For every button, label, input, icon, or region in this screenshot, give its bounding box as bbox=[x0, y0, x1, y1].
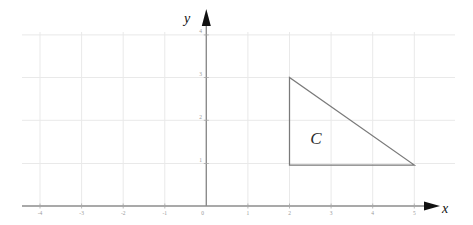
x-tick-label: 3 bbox=[330, 210, 333, 216]
origin-label: 0 bbox=[201, 210, 204, 216]
x-tick-label: -4 bbox=[38, 210, 43, 216]
x-tick-label: 4 bbox=[371, 210, 374, 216]
y-tick-label: 2 bbox=[199, 114, 202, 120]
x-axis-arrowhead-icon bbox=[424, 202, 440, 211]
y-tick-label: 1 bbox=[199, 157, 202, 163]
x-tick-label: 5 bbox=[413, 210, 416, 216]
y-axis-ticks: 1 2 3 4 bbox=[199, 28, 209, 163]
grid-lines bbox=[22, 32, 455, 206]
x-tick-label: 1 bbox=[247, 210, 250, 216]
x-tick-label: -3 bbox=[79, 210, 84, 216]
x-tick-label: -1 bbox=[163, 210, 168, 216]
triangle-shape-c bbox=[290, 78, 415, 166]
y-axis-label: y bbox=[182, 11, 191, 26]
graph-svg: x y -4 -3 -2 -1 0 1 2 3 4 5 bbox=[0, 0, 473, 225]
x-axis-label: x bbox=[441, 201, 449, 216]
x-tick-label: -2 bbox=[121, 210, 126, 216]
coordinate-plane-figure: x y -4 -3 -2 -1 0 1 2 3 4 5 bbox=[0, 0, 473, 225]
shape-label-c: C bbox=[310, 129, 322, 148]
y-axis-arrowhead-icon bbox=[202, 9, 211, 26]
x-tick-label: 2 bbox=[288, 210, 291, 216]
y-tick-label: 3 bbox=[199, 71, 202, 77]
axis-lines bbox=[22, 22, 424, 206]
y-tick-label: 4 bbox=[199, 28, 202, 34]
